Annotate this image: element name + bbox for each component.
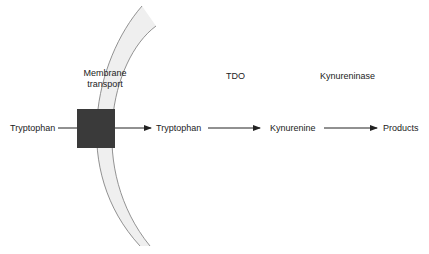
node-tryptophan-inside: Tryptophan [156, 123, 201, 134]
node-kynurenine: Kynurenine [270, 123, 316, 134]
transporter-box [77, 109, 115, 148]
node-tryptophan-outside: Tryptophan [10, 123, 55, 134]
membrane-label-line2: transport [80, 79, 130, 90]
membrane-label-line1: Membrane [80, 68, 130, 79]
membrane-transport-label: Membrane transport [80, 68, 130, 90]
enzyme-tdo-label: TDO [226, 71, 245, 82]
enzyme-kynureninase-label: Kynureninase [320, 71, 375, 82]
pathway-diagram: Membrane transport Tryptophan Tryptophan… [0, 0, 429, 254]
diagram-canvas [0, 0, 429, 254]
node-products: Products [383, 123, 419, 134]
